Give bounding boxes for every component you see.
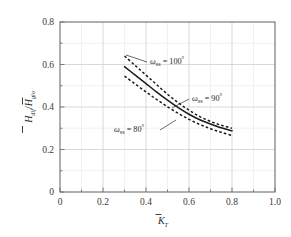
y-tick-label: 0 xyxy=(49,187,54,197)
x-tick-label: 1.0 xyxy=(269,197,281,207)
chart-figure: 00.20.40.60.81.0 00.20.40.60.8 KT Hdif/H… xyxy=(0,0,291,237)
y-axis-label: Hdif/Hglo xyxy=(23,91,36,133)
annotation-omega-90: ωss = 90° xyxy=(192,92,223,104)
x-axis-label: KT xyxy=(156,215,169,228)
x-tick-label: 0.4 xyxy=(140,197,152,207)
y-tick-labels: 00.20.40.60.8 xyxy=(42,17,54,197)
chart-svg: 00.20.40.60.81.0 00.20.40.60.8 KT Hdif/H… xyxy=(0,0,291,237)
annotation-omega-80: ωss = 80° xyxy=(114,123,145,135)
annotation-label: ωss = 100° xyxy=(150,55,185,67)
x-tick-label: 0.8 xyxy=(226,197,238,207)
y-axis-label-den-sub: glo xyxy=(29,91,36,99)
x-tick-labels: 00.20.40.60.81.0 xyxy=(58,197,282,207)
annotation-label: ωss = 90° xyxy=(192,92,223,104)
annotation-label: ωss = 80° xyxy=(114,123,145,135)
y-tick-label: 0.2 xyxy=(42,145,54,155)
annotation-omega-100: ωss = 100° xyxy=(150,55,185,67)
x-axis-label-sub: T xyxy=(165,221,169,228)
y-tick-label: 0.4 xyxy=(42,102,54,112)
y-tick-label: 0.6 xyxy=(42,60,54,70)
y-tick-label: 0.8 xyxy=(42,17,54,27)
svg-text:KT: KT xyxy=(157,215,169,228)
x-tick-label: 0.6 xyxy=(183,197,195,207)
svg-text:Hdif/Hglo: Hdif/Hglo xyxy=(23,91,36,124)
x-tick-label: 0 xyxy=(58,197,63,207)
x-tick-label: 0.2 xyxy=(97,197,109,207)
